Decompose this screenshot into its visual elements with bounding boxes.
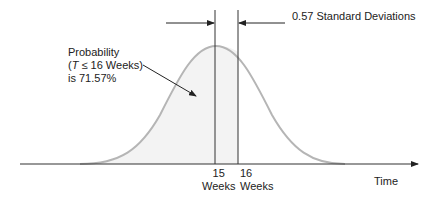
x-axis-label: Time [374, 175, 398, 188]
tick-value: 15 [202, 167, 235, 180]
tick-label-16: 16 Weeks [240, 167, 273, 193]
annotation-line-1: Probability [68, 46, 143, 59]
tick-label-15: 15 Weeks [202, 167, 235, 193]
annotation-condition: ≤ 16 Weeks) [78, 59, 143, 71]
tick-value: 16 [240, 167, 273, 180]
tick-unit: Weeks [240, 180, 273, 193]
probability-annotation: Probability (T ≤ 16 Weeks) is 71.57% [68, 46, 143, 85]
annotation-line-3: is 71.57% [68, 72, 143, 85]
sd-label: 0.57 Standard Deviations [292, 10, 416, 23]
annotation-line-2: (T ≤ 16 Weeks) [68, 59, 143, 72]
tick-unit: Weeks [202, 180, 235, 193]
